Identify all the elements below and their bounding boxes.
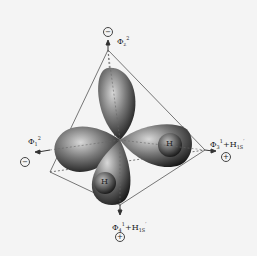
label-left: Φ12 <box>28 136 41 147</box>
sign-top: − <box>103 27 113 37</box>
orbital-lobe-top <box>98 50 135 140</box>
label-right: Φ31+H1S′ <box>210 139 244 150</box>
label-top: Φz2 <box>117 36 129 47</box>
orbital-lobe-right <box>120 124 205 167</box>
sign-right: + <box>221 152 231 162</box>
atom-label-h-bottom: H <box>101 178 108 186</box>
atom-label-h-right: H <box>166 140 173 148</box>
sign-bottom: + <box>115 232 125 242</box>
sign-left: − <box>20 157 30 167</box>
